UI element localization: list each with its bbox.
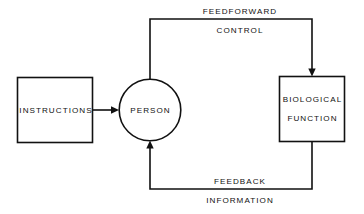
person-label: PERSON bbox=[130, 106, 170, 115]
edge-feedforward-control: FEEDFORWARD CONTROL bbox=[150, 7, 316, 79]
feedforward-control-arrowhead bbox=[308, 69, 315, 77]
edge-feedback-information: FEEDBACK INFORMATION bbox=[146, 141, 312, 206]
feedback-information-label-line1: FEEDBACK bbox=[214, 177, 266, 186]
diagram-root: INSTRUCTIONS PERSON BIOLOGICAL FUNCTION … bbox=[0, 0, 364, 214]
biological-function-label-line2: FUNCTION bbox=[287, 114, 337, 123]
feedback-information-arrowhead bbox=[146, 141, 153, 149]
feedforward-control-label-line2: CONTROL bbox=[217, 26, 264, 35]
node-person: PERSON bbox=[119, 79, 181, 141]
node-biological-function: BIOLOGICAL FUNCTION bbox=[280, 77, 345, 142]
biological-function-label-line1: BIOLOGICAL bbox=[283, 95, 343, 104]
feedforward-control-label-line1: FEEDFORWARD bbox=[203, 7, 278, 16]
instructions-to-person-arrowhead bbox=[111, 106, 119, 113]
control-loop-diagram: INSTRUCTIONS PERSON BIOLOGICAL FUNCTION … bbox=[0, 0, 364, 214]
node-instructions: INSTRUCTIONS bbox=[18, 78, 93, 143]
edge-instructions-to-person bbox=[93, 106, 120, 113]
instructions-label: INSTRUCTIONS bbox=[19, 106, 92, 115]
biological-function-box bbox=[280, 77, 345, 142]
feedback-information-label-line2: INFORMATION bbox=[206, 196, 274, 205]
